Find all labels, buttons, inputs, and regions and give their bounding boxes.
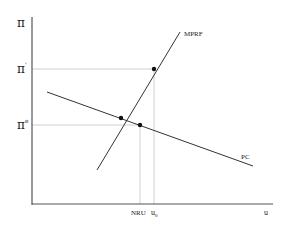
- pi-e-label: πe: [17, 117, 29, 132]
- mprf-at-u0-point: [152, 67, 156, 71]
- u0-label: u0: [151, 208, 158, 218]
- x-axis-label: u: [264, 208, 268, 217]
- mprf-curve: [97, 32, 180, 170]
- mprf-label: MPRF: [184, 30, 203, 38]
- pi-prime-label: π': [17, 61, 27, 76]
- y-axis-label: π: [17, 16, 25, 30]
- pc-at-nru-point: [138, 123, 142, 127]
- nru-label: NRU: [131, 209, 146, 217]
- pc-label: PC: [241, 153, 250, 161]
- mprf-pc-intersection-point: [119, 116, 123, 120]
- pc-curve: [47, 92, 253, 166]
- phillips-curve-mprf-diagram: π π' πe NRU u0 u MPRF PC: [0, 0, 284, 227]
